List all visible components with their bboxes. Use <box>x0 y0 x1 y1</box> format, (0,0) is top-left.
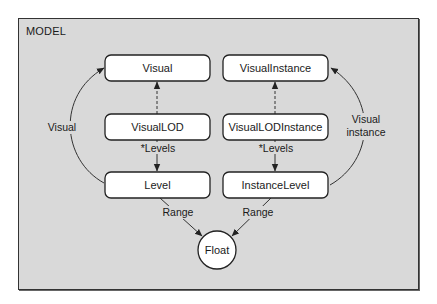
edge-label-range-left: Range <box>163 206 194 218</box>
edge-label-levels-left: *Levels <box>141 142 175 154</box>
node-visual-lod: VisualLOD <box>105 114 210 140</box>
edge-label-visual-instance-line2: instance <box>346 126 385 138</box>
node-float: Float <box>198 231 236 269</box>
node-level-label: Level <box>144 179 170 191</box>
node-instance-level-label: InstanceLevel <box>242 179 310 191</box>
edge-label-levels-right: *Levels <box>259 142 293 154</box>
node-visual: Visual <box>105 55 210 81</box>
node-float-label: Float <box>205 244 229 256</box>
node-visual-label: Visual <box>143 62 173 74</box>
node-instance-level: InstanceLevel <box>223 172 328 198</box>
edge-label-visual-instance-line1: Visual <box>352 113 380 125</box>
edge-label-visual: Visual <box>48 121 76 133</box>
diagram-canvas: Visual Visual instance *Levels *Levels R… <box>0 0 437 304</box>
node-level: Level <box>105 172 210 198</box>
node-visual-lod-instance-label: VisualLODInstance <box>229 121 323 133</box>
node-visual-lod-instance: VisualLODInstance <box>223 114 328 140</box>
edge-label-range-right: Range <box>243 206 274 218</box>
node-visual-instance-label: VisualInstance <box>240 62 311 74</box>
node-visual-instance: VisualInstance <box>223 55 328 81</box>
node-visual-lod-label: VisualLOD <box>131 121 183 133</box>
